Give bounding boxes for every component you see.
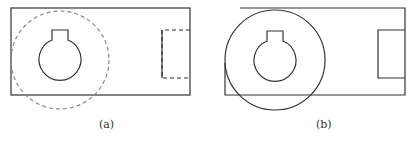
panel-a-dashed-slot (162, 30, 190, 78)
panel-a-label: (a) (99, 118, 114, 131)
panel-a-dashed-circle (11, 11, 109, 109)
panel-a (11, 8, 190, 109)
panel-b-slot (378, 30, 405, 78)
panel-b (225, 8, 405, 110)
panel-b-label: (b) (316, 118, 332, 131)
panel-a-outline-rect (11, 8, 190, 95)
panel-a-keyhole (39, 30, 81, 80)
panel-b-keyhole (254, 31, 296, 81)
diagram-canvas (0, 0, 410, 143)
